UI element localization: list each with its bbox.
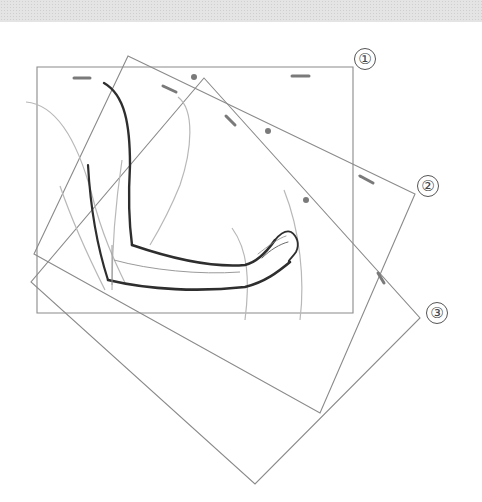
peg-dashes	[74, 76, 384, 283]
arm-sketch	[88, 83, 298, 290]
peg-dash	[360, 176, 373, 183]
frames-group	[31, 56, 420, 484]
peg-dash	[163, 86, 176, 92]
peg-dot	[303, 197, 309, 203]
frame-label-3: ③	[426, 302, 448, 324]
peg-dash	[226, 116, 235, 125]
frame-2	[34, 56, 415, 413]
peg-dot	[265, 128, 271, 134]
peg-dots	[191, 74, 309, 203]
frame-1	[37, 67, 353, 313]
construction-lines	[26, 97, 302, 320]
frame-label-2: ②	[417, 175, 439, 197]
peg-dot	[191, 74, 197, 80]
frame-label-1: ①	[354, 48, 376, 70]
diagram-canvas	[0, 0, 482, 502]
frame-3	[31, 78, 420, 484]
